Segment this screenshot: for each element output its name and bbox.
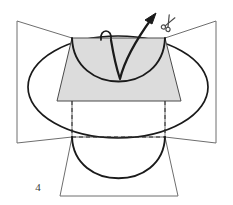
figure-root: 4 bbox=[0, 0, 233, 205]
shaded-flap-trapezoid bbox=[57, 38, 181, 101]
figure-number-label: 4 bbox=[35, 181, 41, 193]
figure-background bbox=[0, 0, 233, 205]
figure-canvas: 4 bbox=[0, 0, 233, 205]
